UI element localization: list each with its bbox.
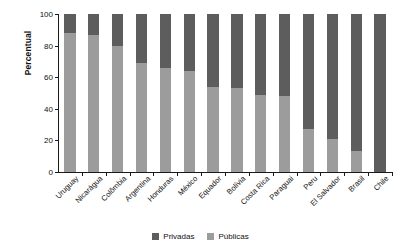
y-axis-tick-label: 100 — [31, 10, 53, 19]
chart-legend: PrivadasPúblicas — [0, 232, 401, 241]
y-axis-tick — [55, 77, 58, 78]
bar-segment-publicas — [88, 35, 99, 172]
bar-segment-publicas — [64, 33, 75, 172]
bar-column — [231, 14, 242, 172]
y-axis-tick — [55, 140, 58, 141]
bar-segment-privadas — [374, 14, 385, 172]
y-axis-tick-label: 40 — [31, 104, 53, 113]
bar-column — [327, 14, 338, 172]
bar-segment-privadas — [303, 14, 314, 129]
bar-segment-privadas — [327, 14, 338, 139]
bar-segment-privadas — [184, 14, 195, 71]
bar-column — [136, 14, 147, 172]
bar-segment-privadas — [255, 14, 266, 95]
bar-segment-privadas — [64, 14, 75, 33]
legend-label: Privadas — [163, 232, 194, 241]
legend-item: Públicas — [207, 232, 248, 241]
y-axis-tick-label: 0 — [31, 168, 53, 177]
bar-column — [255, 14, 266, 172]
bar-segment-privadas — [351, 14, 362, 151]
bar-column — [160, 14, 171, 172]
legend-label: Públicas — [218, 232, 248, 241]
legend-swatch — [207, 233, 214, 240]
bar-column — [184, 14, 195, 172]
plot-area: 020406080100 — [58, 14, 392, 172]
y-axis-tick-label: 20 — [31, 136, 53, 145]
bar-segment-privadas — [88, 14, 99, 35]
bar-segment-privadas — [112, 14, 123, 46]
chart-container: Percentual 020406080100 UruguayNicarágua… — [0, 0, 401, 247]
bar-column — [207, 14, 218, 172]
legend-swatch — [152, 233, 159, 240]
bar-segment-privadas — [207, 14, 218, 87]
bar-segment-privadas — [160, 14, 171, 68]
bar-series-group — [58, 14, 392, 172]
bar-column — [112, 14, 123, 172]
x-axis-label-text: Peru — [301, 174, 319, 192]
bar-column — [64, 14, 75, 172]
y-axis-tick-label: 60 — [31, 73, 53, 82]
x-axis-label-text: Chile — [372, 174, 391, 193]
bar-column — [279, 14, 290, 172]
x-axis-label-text: Brasil — [347, 174, 367, 194]
bar-column — [303, 14, 314, 172]
bar-column — [374, 14, 385, 172]
bar-segment-privadas — [136, 14, 147, 63]
y-axis-tick-label: 80 — [31, 41, 53, 50]
y-axis-tick — [55, 109, 58, 110]
bar-segment-privadas — [279, 14, 290, 96]
bar-column — [88, 14, 99, 172]
legend-item: Privadas — [152, 232, 194, 241]
bar-segment-privadas — [231, 14, 242, 88]
x-axis-labels: UruguayNicaráguaColômbiaArgentinaHondura… — [58, 174, 392, 226]
y-axis-tick — [55, 14, 58, 15]
y-axis-tick — [55, 172, 58, 173]
y-axis-tick — [55, 46, 58, 47]
